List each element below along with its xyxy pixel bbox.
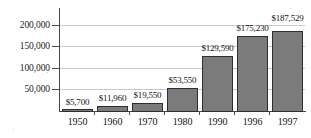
bar-1960 <box>97 106 128 112</box>
bar-1950 <box>62 109 93 112</box>
bar-1990 <box>202 56 233 112</box>
x-axis-tick <box>234 112 235 115</box>
x-axis-label-1997: 1997 <box>267 117 308 127</box>
scan-speckle <box>290 8 291 9</box>
x-axis-tick <box>199 112 200 115</box>
bar-value-label-1980: $53,550 <box>159 76 206 85</box>
bar-value-label-1997: $187,529 <box>260 14 311 23</box>
bar-value-label-1970: $19,550 <box>124 91 171 100</box>
bar-1970 <box>132 103 163 112</box>
scan-speckle <box>47 72 48 73</box>
x-axis-tick <box>164 112 165 115</box>
x-axis-tick <box>129 112 130 115</box>
bar-chart: 200,000 150,000 100,000 50,000 $5,700 $1… <box>0 0 311 138</box>
x-axis-tick <box>269 112 270 115</box>
bar-1997 <box>272 31 303 112</box>
bar-1996 <box>237 36 268 112</box>
x-axis-tick <box>94 112 95 115</box>
scan-speckle <box>13 129 14 130</box>
bar-1980 <box>167 88 198 112</box>
